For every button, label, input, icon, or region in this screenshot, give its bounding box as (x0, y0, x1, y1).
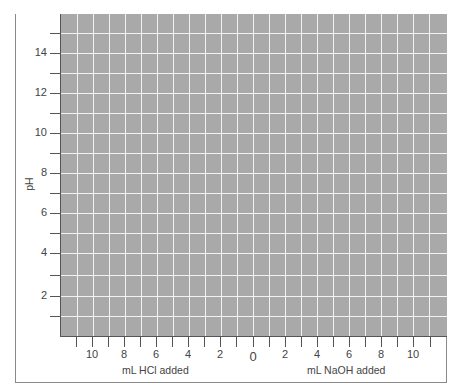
x-tick (381, 337, 382, 347)
y-tick-7 (50, 193, 60, 194)
x-tick (140, 337, 141, 347)
x-label-naoh-8: 8 (371, 348, 391, 360)
y-tick-6 (50, 213, 60, 214)
x-tick (204, 337, 205, 347)
x-tick (220, 337, 221, 347)
x-tick (413, 337, 414, 347)
x-label-hcl-2: 2 (210, 348, 230, 360)
x-tick (365, 337, 366, 347)
x-tick (301, 337, 302, 347)
x-label-hcl-4: 4 (178, 348, 198, 360)
x-tick (430, 337, 431, 347)
x-label-hcl-10: 10 (82, 348, 102, 360)
x-label-naoh-2: 2 (275, 348, 295, 360)
x-tick (188, 337, 189, 347)
x-tick (108, 337, 109, 347)
y-tick-1 (50, 316, 60, 317)
y-label-12: 12 (27, 86, 47, 98)
y-label-14: 14 (27, 46, 47, 58)
x-axis-title-naoh: mL NaOH added (307, 364, 385, 376)
y-axis-line (60, 14, 61, 336)
outer-frame-bottom (15, 382, 447, 383)
y-label-6: 6 (27, 206, 47, 218)
x-tick (156, 337, 157, 347)
x-label-zero: 0 (243, 349, 263, 364)
y-tick-14 (50, 53, 60, 54)
y-label-2: 2 (27, 289, 47, 301)
y-axis-title: pH (23, 177, 35, 190)
x-label-hcl-6: 6 (146, 348, 166, 360)
y-tick-13 (50, 73, 60, 74)
x-tick (269, 337, 270, 347)
y-label-10: 10 (27, 126, 47, 138)
x-label-hcl-8: 8 (114, 348, 134, 360)
y-tick-5 (50, 233, 60, 234)
outer-frame-left (15, 14, 16, 382)
x-tick (92, 337, 93, 347)
gridlines (61, 14, 447, 336)
x-tick (172, 337, 173, 347)
y-tick-12 (50, 93, 60, 94)
x-tick (317, 337, 318, 347)
y-tick-9 (50, 153, 60, 154)
y-tick-4 (50, 253, 60, 254)
y-tick-8 (50, 173, 60, 174)
x-tick (285, 337, 286, 347)
x-tick (349, 337, 350, 347)
plot-area-grid (61, 14, 447, 336)
y-tick-11 (50, 113, 60, 114)
y-label-4: 4 (27, 246, 47, 258)
x-tick (333, 337, 334, 347)
x-label-naoh-6: 6 (339, 348, 359, 360)
x-tick (124, 337, 125, 347)
y-tick-2 (50, 296, 60, 297)
y-tick-15 (50, 33, 60, 34)
x-tick (76, 337, 77, 347)
y-tick-3 (50, 275, 60, 276)
y-tick-10 (50, 133, 60, 134)
x-label-naoh-4: 4 (307, 348, 327, 360)
x-tick (397, 337, 398, 347)
x-tick-zero (253, 337, 254, 347)
x-label-naoh-10: 10 (403, 348, 423, 360)
y-label-8: 8 (27, 166, 47, 178)
x-tick (236, 337, 237, 347)
x-axis-title-hcl: mL HCl added (122, 364, 189, 376)
